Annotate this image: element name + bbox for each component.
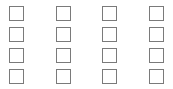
- checkbox-r2-c3[interactable]: [102, 27, 117, 42]
- checkbox-r1-c4[interactable]: [149, 6, 164, 21]
- checkbox-r1-c2[interactable]: [56, 6, 71, 21]
- checkbox-r4-c3[interactable]: [102, 69, 117, 84]
- checkbox-r1-c1[interactable]: [9, 6, 24, 21]
- checkbox-r3-c2[interactable]: [56, 48, 71, 63]
- checkbox-r3-c4[interactable]: [149, 48, 164, 63]
- checkbox-r4-c2[interactable]: [56, 69, 71, 84]
- checkbox-r4-c1[interactable]: [9, 69, 24, 84]
- checkbox-r2-c2[interactable]: [56, 27, 71, 42]
- checkbox-r3-c3[interactable]: [102, 48, 117, 63]
- checkbox-r2-c4[interactable]: [149, 27, 164, 42]
- checkbox-grid: [9, 6, 164, 84]
- checkbox-r2-c1[interactable]: [9, 27, 24, 42]
- checkbox-r4-c4[interactable]: [149, 69, 164, 84]
- checkbox-r1-c3[interactable]: [102, 6, 117, 21]
- checkbox-r3-c1[interactable]: [9, 48, 24, 63]
